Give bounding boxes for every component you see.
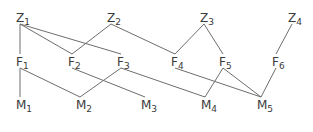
node-label-subscript: 3 [151, 104, 157, 114]
node-z2: Z2 [107, 11, 121, 27]
node-label-base: M [257, 98, 267, 112]
layered-graph: Z1Z2Z3Z4F1F2F3F4F5F6M1M2M3M4M5 [0, 0, 313, 132]
edge-f3-m2 [80, 68, 121, 97]
edge-f5-m4 [205, 68, 223, 97]
edge-f6-m5 [261, 68, 276, 97]
edge-z3-f4 [175, 24, 204, 54]
edge-z1-f2 [20, 24, 72, 54]
node-label-base: M [141, 98, 151, 112]
node-z1: Z1 [16, 11, 30, 27]
node-m2: M2 [76, 98, 92, 114]
node-label-base: M [201, 98, 211, 112]
node-label-base: M [16, 98, 26, 112]
node-label-subscript: 6 [279, 61, 285, 71]
edge-z2-f4 [111, 24, 175, 54]
node-label-subscript: 1 [26, 104, 32, 114]
node-f4: F4 [171, 55, 184, 71]
node-z3: Z3 [200, 11, 214, 27]
node-label-base: Z [288, 11, 296, 25]
node-f5: F5 [219, 55, 232, 71]
edges-group [20, 24, 292, 97]
node-label-subscript: 1 [24, 17, 30, 27]
node-label-base: Z [107, 11, 115, 25]
node-label-base: M [76, 98, 86, 112]
node-f6: F6 [272, 55, 285, 71]
edge-f4-m5 [175, 68, 261, 97]
node-m5: M5 [257, 98, 273, 114]
node-z4: Z4 [288, 11, 302, 27]
node-label-subscript: 3 [208, 17, 214, 27]
node-label-subscript: 4 [296, 17, 302, 27]
node-label-subscript: 5 [267, 104, 273, 114]
node-f2: F2 [68, 55, 81, 71]
node-f3: F3 [117, 55, 130, 71]
node-m1: M1 [16, 98, 32, 114]
node-label-subscript: 2 [75, 61, 81, 71]
node-label-subscript: 4 [178, 61, 184, 71]
node-label-subscript: 2 [86, 104, 92, 114]
edge-z3-f5 [204, 24, 223, 54]
node-label-base: Z [200, 11, 208, 25]
node-label-subscript: 2 [115, 17, 121, 27]
node-label-subscript: 5 [226, 61, 232, 71]
node-label-subscript: 4 [211, 104, 217, 114]
nodes-group: Z1Z2Z3Z4F1F2F3F4F5F6M1M2M3M4M5 [16, 11, 302, 114]
node-m4: M4 [201, 98, 217, 114]
edge-z4-f6 [276, 24, 292, 54]
node-f1: F1 [16, 55, 29, 71]
edge-f1-m2 [20, 68, 80, 97]
node-m3: M3 [141, 98, 157, 114]
node-label-base: Z [16, 11, 24, 25]
node-label-subscript: 3 [124, 61, 130, 71]
node-label-subscript: 1 [23, 61, 29, 71]
edge-f5-m5 [223, 68, 261, 97]
